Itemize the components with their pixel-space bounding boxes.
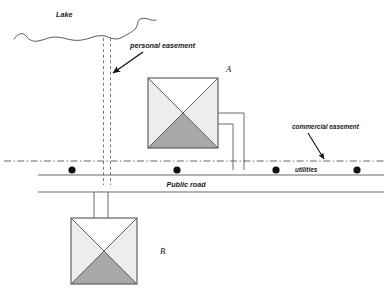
lake-shoreline: [14, 18, 156, 41]
personal-easement-corridor[interactable]: [104, 38, 111, 185]
site-plan-svg: Lake personal easement A: [0, 0, 388, 300]
public-road-label: Public road: [166, 180, 206, 189]
commercial-easement-label: commercial easement: [292, 123, 360, 130]
building-b-service-pipes: [94, 192, 108, 218]
utility-node[interactable]: [353, 166, 360, 173]
utilities-label: utilities: [295, 166, 318, 173]
building-b-label: B: [160, 246, 165, 256]
utility-node[interactable]: [173, 166, 180, 173]
personal-easement-arrow: [113, 52, 143, 73]
building-a[interactable]: [148, 78, 218, 148]
diagram-canvas: Lake personal easement A: [0, 0, 388, 300]
personal-easement-label: personal easement: [129, 41, 196, 50]
utility-node[interactable]: [68, 166, 75, 173]
building-a-label: A: [225, 64, 232, 74]
building-b[interactable]: [71, 218, 137, 284]
utility-node[interactable]: [272, 166, 279, 173]
public-road[interactable]: [38, 175, 384, 192]
commercial-easement-arrow: [308, 133, 324, 159]
lake-label: Lake: [56, 10, 72, 19]
